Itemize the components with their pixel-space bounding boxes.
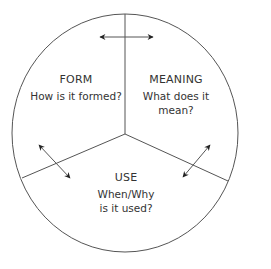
- segment-meaning-title: MEANING: [138, 73, 214, 87]
- segment-use-question-line1: When/Why: [90, 187, 162, 201]
- segment-use-title: USE: [90, 171, 162, 185]
- segment-meaning-question-line1: What does it: [138, 89, 214, 103]
- segment-form-question: How is it formed?: [30, 89, 122, 103]
- segment-use-question-line2: is it used?: [90, 201, 162, 215]
- form-meaning-use-circle: [0, 0, 271, 269]
- segment-meaning-question-line2: mean?: [138, 103, 214, 117]
- segment-form-title: FORM: [30, 73, 122, 87]
- segment-meaning: MEANING What does it mean?: [138, 73, 214, 117]
- arrow-form-use-icon: [39, 145, 70, 178]
- arrow-meaning-use-icon: [183, 145, 210, 177]
- segment-use: USE When/Why is it used?: [90, 171, 162, 215]
- segment-form: FORM How is it formed?: [30, 73, 122, 103]
